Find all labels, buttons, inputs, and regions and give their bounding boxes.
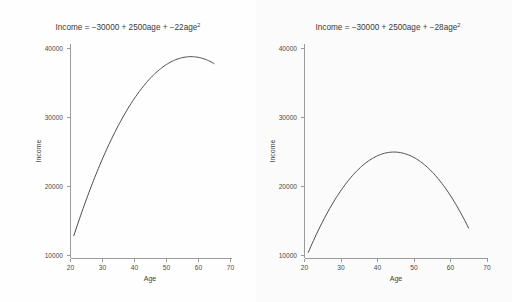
right-xtick-label-30: 30 [337, 264, 345, 271]
left-xtick-label-20: 20 [67, 264, 75, 271]
right-xtick-label-40: 40 [374, 264, 382, 271]
right-chart-title-text: Income = −30000 + 2500age + −28age [316, 23, 458, 32]
left-y-ticks: 40000 30000 20000 10000 [45, 45, 71, 259]
chart-panel-left: Income = −30000 + 2500age + −22age2 4000… [0, 0, 256, 302]
left-xtick-label-50: 50 [163, 264, 171, 271]
left-chart-title-exponent: 2 [197, 22, 200, 28]
left-y-axis-title: Income [35, 139, 42, 162]
right-x-ticks: 20 30 40 50 60 70 [301, 259, 491, 272]
left-xtick-label-70: 70 [227, 264, 235, 271]
left-ytick-label-10000: 10000 [45, 252, 64, 259]
left-ytick-label-40000: 40000 [45, 45, 64, 52]
right-y-ticks: 40000 30000 20000 10000 [279, 45, 305, 259]
left-x-ticks: 20 30 40 50 60 70 [67, 259, 235, 272]
right-chart-title-exponent: 2 [457, 22, 460, 28]
left-xtick-label-30: 30 [99, 264, 107, 271]
left-chart-title-text: Income = −30000 + 2500age + −22age [56, 23, 198, 32]
right-ytick-label-20000: 20000 [279, 183, 298, 190]
right-xtick-label-50: 50 [410, 264, 418, 271]
left-income-curve [74, 57, 215, 236]
left-chart-title: Income = −30000 + 2500age + −22age2 [56, 22, 201, 32]
figure-container: Income = −30000 + 2500age + −22age2 4000… [0, 0, 512, 302]
right-ytick-label-30000: 30000 [279, 114, 298, 121]
right-x-axis-title: Age [390, 275, 403, 283]
left-xtick-label-40: 40 [131, 264, 139, 271]
right-xtick-label-60: 60 [447, 264, 455, 271]
left-ytick-label-20000: 20000 [45, 183, 64, 190]
right-ytick-label-10000: 10000 [279, 252, 298, 259]
right-income-curve [308, 152, 469, 253]
left-plot-svg: Income = −30000 + 2500age + −22age2 4000… [0, 0, 256, 302]
right-xtick-label-70: 70 [483, 264, 491, 271]
right-y-axis-title: Income [269, 139, 276, 162]
left-ytick-label-30000: 30000 [45, 114, 64, 121]
left-x-axis-title: Age [144, 275, 157, 283]
right-xtick-label-20: 20 [301, 264, 309, 271]
chart-panel-right: Income = −30000 + 2500age + −28age2 4000… [256, 0, 512, 302]
left-xtick-label-60: 60 [195, 264, 203, 271]
right-plot-svg: Income = −30000 + 2500age + −28age2 4000… [256, 0, 512, 302]
right-ytick-label-40000: 40000 [279, 45, 298, 52]
right-chart-title: Income = −30000 + 2500age + −28age2 [316, 22, 461, 32]
